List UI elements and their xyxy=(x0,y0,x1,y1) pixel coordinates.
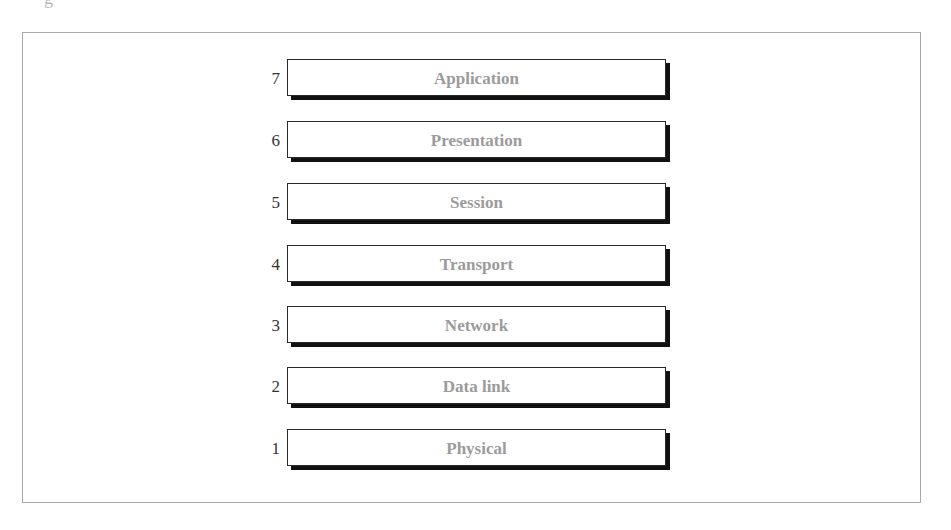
layer-row-2: 2 Data link xyxy=(0,367,951,411)
layer-label: Network xyxy=(288,316,665,336)
layer-number: 3 xyxy=(262,316,280,336)
layer-row-1: 1 Physical xyxy=(0,429,951,473)
layer-label: Data link xyxy=(288,377,665,397)
layer-box-network: Network xyxy=(287,306,666,343)
layer-row-7: 7 Application xyxy=(0,59,951,103)
layer-box-application: Application xyxy=(287,59,666,96)
layer-number: 1 xyxy=(262,439,280,459)
layer-box-data-link: Data link xyxy=(287,367,666,404)
layer-label: Physical xyxy=(288,439,665,459)
layer-row-3: 3 Network xyxy=(0,306,951,350)
layer-number: 6 xyxy=(262,131,280,151)
cropped-caption: g xyxy=(44,0,53,4)
layer-label: Transport xyxy=(288,255,665,275)
layer-label: Application xyxy=(288,69,665,89)
layer-label: Presentation xyxy=(288,131,665,151)
layer-number: 4 xyxy=(262,255,280,275)
layer-number: 7 xyxy=(262,69,280,89)
layer-box-transport: Transport xyxy=(287,245,666,282)
layer-row-5: 5 Session xyxy=(0,183,951,227)
layer-box-presentation: Presentation xyxy=(287,121,666,158)
layer-label: Session xyxy=(288,193,665,213)
layer-box-session: Session xyxy=(287,183,666,220)
layer-row-4: 4 Transport xyxy=(0,245,951,289)
layer-number: 5 xyxy=(262,193,280,213)
layer-number: 2 xyxy=(262,377,280,397)
layer-box-physical: Physical xyxy=(287,429,666,466)
layer-row-6: 6 Presentation xyxy=(0,121,951,165)
